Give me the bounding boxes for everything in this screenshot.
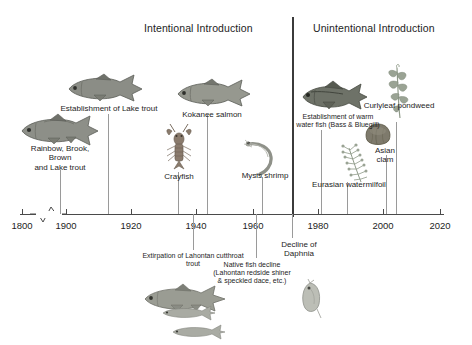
caption-native-fish-decline: Native fish decline (Lahontan redside sh… xyxy=(200,261,304,286)
caption-asian-clam: Asian clam xyxy=(368,146,402,165)
axis-tick-2020 xyxy=(440,209,441,215)
caption-mysis-shrimp: Mysis shrimp xyxy=(232,171,298,180)
trout-image xyxy=(14,112,102,146)
caption-establishment-lake-trout: Establishment of Lake trout xyxy=(44,104,174,113)
axis-tick-1800 xyxy=(22,209,23,215)
caption-establishment-warm-water-fish: Establishment of warm water fish (Bass &… xyxy=(292,113,384,129)
axis-label-2020: 2020 xyxy=(425,220,455,231)
axis-label-1900: 1900 xyxy=(51,220,81,231)
salmon-image xyxy=(172,78,252,108)
axis-label-2000: 2000 xyxy=(368,220,398,231)
axis-tick-1920 xyxy=(131,209,132,215)
caption-eurasian-watermilfoil: Eurasian watermilfoil xyxy=(300,180,398,189)
caption-decline-of-daphnia: Decline of Daphnia xyxy=(268,240,330,259)
axis-label-1980: 1980 xyxy=(303,220,333,231)
caption-kokanee-salmon: Kokanee salmon xyxy=(170,110,254,119)
axis-break-mask xyxy=(36,211,62,218)
axis-tick-2000 xyxy=(383,209,384,215)
crayfish-image xyxy=(162,122,196,172)
timeline-axis xyxy=(20,214,444,215)
axis-tick-1900 xyxy=(66,209,67,215)
leader-curlyleaf-pondweed xyxy=(396,122,397,214)
leader-extirpation-lahontan-cutthroat-trout xyxy=(193,214,194,250)
leader-native-fish-decline xyxy=(256,214,257,258)
caption-curlyleaf-pondweed: Curlyleaf pondweed xyxy=(357,101,441,110)
axis-label-1920: 1920 xyxy=(116,220,146,231)
section-title-intentional: Intentional Introduction xyxy=(144,22,253,34)
axis-label-1960: 1960 xyxy=(238,220,268,231)
leader-kokanee-salmon xyxy=(207,115,208,214)
axis-tick-1960 xyxy=(253,209,254,215)
leader-decline-of-daphnia xyxy=(292,214,293,238)
leader-mysis-shrimp xyxy=(262,177,263,214)
small-fish-image-1 xyxy=(158,305,216,321)
caption-rainbow-brook-brown-lake-trout: Rainbow, Brook, Brown and Lake trout xyxy=(6,144,114,172)
lake-trout-image xyxy=(62,72,146,102)
axis-label-1940: 1940 xyxy=(181,220,211,231)
small-fish-image-2 xyxy=(168,324,226,340)
caption-crayfish: Crayfish xyxy=(150,172,208,181)
leader-establishment-warm-water-fish xyxy=(321,130,322,214)
axis-label-1800: 1800 xyxy=(7,220,37,231)
section-title-unintentional: Unintentional Introduction xyxy=(313,22,435,34)
leader-rainbow-brook-brown-lake-trout xyxy=(60,170,61,214)
axis-tick-1940 xyxy=(196,209,197,215)
axis-tick-1980 xyxy=(318,209,319,215)
